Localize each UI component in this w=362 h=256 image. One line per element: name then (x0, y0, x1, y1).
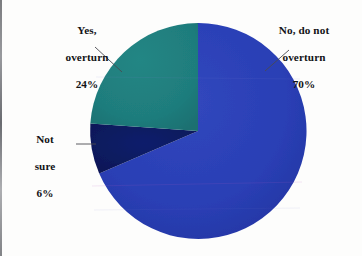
pie-label-yes-value: 24% (40, 78, 134, 91)
pie-label-not-sure-line2: sure (18, 160, 72, 173)
pie-label-yes-overturn: Yes, overturn 24% (40, 11, 134, 105)
pie-label-no-value: 70% (252, 78, 356, 91)
pie-label-no-line1: No, do not (252, 24, 356, 37)
pie-label-no-do-not-overturn: No, do not overturn 70% (252, 11, 356, 105)
pie-label-not-sure: Not sure 6% (18, 120, 72, 214)
pie-label-no-line2: overturn (252, 51, 356, 64)
pie-label-yes-line2: overturn (40, 51, 134, 64)
pie-label-yes-line1: Yes, (40, 24, 134, 37)
pie-label-not-sure-value: 6% (18, 187, 72, 200)
pie-chart: Yes, overturn 24% No, do not overturn 70… (0, 0, 362, 256)
pie-label-not-sure-line1: Not (18, 133, 72, 146)
